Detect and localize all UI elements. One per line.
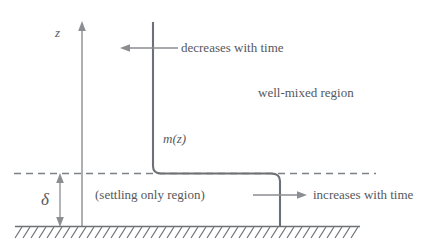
bed-ground-line bbox=[15, 227, 360, 239]
well-mixed-region-label: well-mixed region bbox=[258, 86, 354, 99]
settling-only-region-label: (settling only region) bbox=[95, 188, 205, 201]
increases-with-time-label: increases with time bbox=[313, 188, 413, 201]
delta-arrowhead-bottom bbox=[56, 217, 64, 227]
increases-arrowhead bbox=[297, 191, 307, 199]
decreases-arrow bbox=[120, 44, 178, 52]
z-axis-arrowhead bbox=[78, 21, 86, 31]
z-axis-label: z bbox=[55, 26, 60, 39]
profile-label: m(z) bbox=[163, 132, 186, 145]
z-axis bbox=[78, 21, 86, 227]
decreases-arrowhead bbox=[120, 44, 130, 52]
diagram-canvas bbox=[0, 0, 438, 249]
bed-hatch-marks bbox=[15, 227, 358, 238]
figure-container: z δ m(z) decreases with time well-mixed … bbox=[0, 0, 438, 249]
delta-arrowhead-top bbox=[56, 173, 64, 183]
decreases-with-time-label: decreases with time bbox=[181, 41, 284, 54]
delta-label: δ bbox=[41, 191, 49, 208]
delta-dimension-arrow bbox=[56, 173, 64, 227]
